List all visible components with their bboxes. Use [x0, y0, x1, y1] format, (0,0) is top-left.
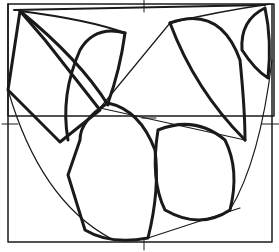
- sketch-canvas: [0, 0, 279, 252]
- frame-top: [8, 4, 274, 116]
- line-sketch: [0, 0, 279, 252]
